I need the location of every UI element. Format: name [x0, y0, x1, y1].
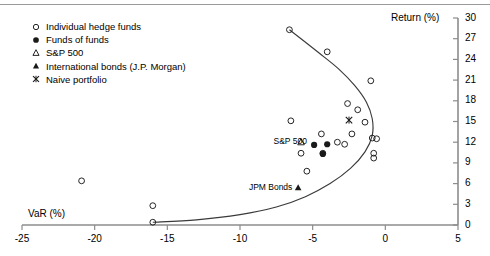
data-point — [318, 131, 324, 137]
y-tick-label: 15 — [465, 115, 476, 126]
data-point — [345, 101, 351, 107]
data-point — [324, 141, 330, 147]
data-point — [362, 119, 368, 125]
data-point — [368, 78, 374, 84]
legend-item: Naive portfolio — [28, 73, 186, 86]
x-tick-label: 0 — [373, 233, 397, 244]
x-tick-label: 5 — [446, 233, 470, 244]
data-point — [324, 49, 330, 55]
open-triangle-icon — [28, 47, 44, 59]
data-point — [346, 117, 352, 124]
x-tick-label: -15 — [155, 233, 179, 244]
legend-item-label: International bonds (J.P. Morgan) — [46, 60, 186, 73]
y-tick-label: 27 — [465, 32, 476, 43]
legend-item-label: Individual hedge funds — [46, 20, 141, 33]
data-point — [342, 141, 348, 147]
y-axis-label: Return (%) — [391, 12, 439, 23]
data-point — [355, 107, 361, 113]
data-point — [298, 150, 304, 156]
x-tick-label: -10 — [228, 233, 252, 244]
point-annotation: S&P 500 — [245, 136, 307, 146]
y-tick-label: 18 — [465, 94, 476, 105]
x-tick-label: -20 — [83, 233, 107, 244]
y-tick-label: 6 — [465, 177, 471, 188]
data-point — [150, 203, 156, 209]
data-point — [320, 151, 326, 157]
legend-item: International bonds (J.P. Morgan) — [28, 60, 186, 73]
data-point — [349, 131, 355, 137]
data-point — [79, 178, 85, 184]
y-tick-label: 9 — [465, 156, 471, 167]
data-point — [288, 118, 294, 124]
legend-item-label: Funds of funds — [46, 33, 109, 46]
chart-legend: Individual hedge fundsFunds of fundsS&P … — [28, 20, 186, 86]
filled-triangle-icon — [28, 60, 44, 72]
legend-item: Individual hedge funds — [28, 20, 186, 33]
legend-item: S&P 500 — [28, 46, 186, 59]
open-circle-icon — [28, 21, 44, 33]
data-point — [311, 142, 317, 148]
y-tick-label: 30 — [465, 12, 476, 23]
y-tick-label: 12 — [465, 136, 476, 147]
point-annotation: JPM Bonds — [230, 182, 292, 192]
legend-item: Funds of funds — [28, 33, 186, 46]
legend-item-label: S&P 500 — [46, 46, 83, 59]
data-point — [334, 139, 340, 145]
y-tick-label: 24 — [465, 53, 476, 64]
efficient-frontier-curve — [153, 30, 373, 223]
x-tick-label: -5 — [301, 233, 325, 244]
x-axis-label: VaR (%) — [28, 208, 65, 219]
y-tick-label: 3 — [465, 198, 471, 209]
cross-x-icon — [28, 73, 44, 85]
data-point — [304, 168, 310, 174]
filled-circle-icon — [28, 34, 44, 46]
legend-item-label: Naive portfolio — [46, 73, 107, 86]
data-point — [295, 184, 302, 190]
x-tick-label: -25 — [10, 233, 34, 244]
y-tick-label: 21 — [465, 74, 476, 85]
y-tick-label: 0 — [465, 219, 471, 230]
